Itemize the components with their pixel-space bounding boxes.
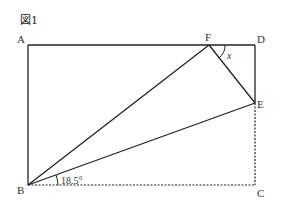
segment-FE	[209, 45, 255, 103]
angle-x-arc	[219, 45, 225, 58]
point-label-A: A	[17, 33, 25, 45]
point-label-E: E	[257, 98, 264, 110]
point-label-C: C	[257, 187, 264, 199]
point-label-B: B	[17, 184, 24, 196]
angle-x-label: x	[226, 50, 232, 61]
point-label-D: D	[257, 33, 265, 45]
angle-18-arc	[56, 175, 58, 185]
geometry-diagram: A F D E B C x 18.5°	[0, 0, 284, 213]
point-label-F: F	[205, 31, 211, 43]
angle-given-label: 18.5°	[61, 175, 83, 186]
segment-BF	[28, 45, 209, 185]
segment-BE	[28, 103, 255, 185]
